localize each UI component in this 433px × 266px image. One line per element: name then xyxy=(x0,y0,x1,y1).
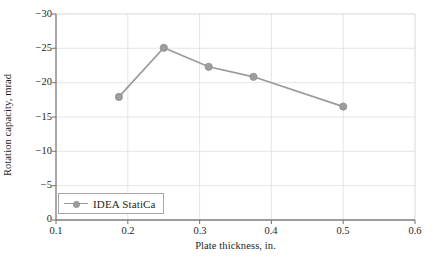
chart-figure: Rotation capacity, mrad −30 −25 −20 −15 … xyxy=(0,0,433,266)
chart-legend: IDEA StatiCa xyxy=(58,193,164,214)
data-point xyxy=(250,73,257,80)
series-markers xyxy=(115,44,347,110)
x-axis-label: Plate thickness, in. xyxy=(56,240,415,251)
data-point xyxy=(205,63,212,70)
data-point xyxy=(160,44,167,51)
plot-area xyxy=(0,0,433,266)
data-point xyxy=(115,93,122,100)
horizontal-gridlines xyxy=(56,48,415,185)
series-idea-statica xyxy=(115,44,347,110)
legend-line-marker-icon xyxy=(64,199,88,209)
data-point xyxy=(340,103,347,110)
series-line xyxy=(119,48,343,107)
legend-entry-label: IDEA StatiCa xyxy=(93,198,156,210)
